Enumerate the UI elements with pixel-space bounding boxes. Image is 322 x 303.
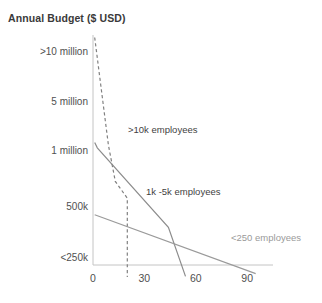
x-tick-label-1: 30	[129, 272, 159, 284]
x-tick-label-2: 60	[181, 272, 211, 284]
series-label-1k-5k-employees: 1k -5k employees	[146, 186, 220, 197]
x-tick-label-3: 90	[232, 272, 262, 284]
series-label-under-250-employees: <250 employees	[231, 232, 301, 243]
series-label-10k-employees: >10k employees	[128, 124, 197, 135]
x-tick-label-0: 0	[78, 272, 108, 284]
series-line-1k-5k-employees	[95, 143, 186, 277]
series-line-10k-employees	[95, 38, 128, 277]
plot-area	[0, 0, 322, 303]
chart-container: Annual Budget ($ USD) >10 million 5 mill…	[0, 0, 322, 303]
